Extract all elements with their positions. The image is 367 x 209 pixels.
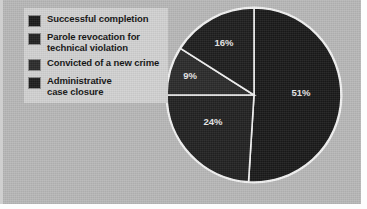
page-edge-right xyxy=(361,0,367,209)
legend-swatch-convicted-new-crime xyxy=(28,59,41,71)
pie-slice-data-label: 24% xyxy=(203,116,223,127)
legend-swatch-parole-revocation xyxy=(28,33,41,45)
legend-label-parole-revocation: Parole revocation for technical violatio… xyxy=(47,32,140,53)
legend-label-convicted-new-crime: Convicted of a new crime xyxy=(47,58,159,69)
page-edge-left xyxy=(0,0,3,209)
legend-item-convicted-new-crime: Convicted of a new crime xyxy=(28,58,164,71)
legend-item-administrative-closure: Administrative case closure xyxy=(28,76,164,97)
pie-slice-data-label: 51% xyxy=(291,87,311,98)
pie-chart: 51%24%9%16% xyxy=(165,6,345,186)
pie-slice-data-label: 9% xyxy=(183,70,197,81)
pie-slice xyxy=(167,95,254,182)
legend-swatch-administrative-closure xyxy=(28,77,41,89)
chart-legend: Successful completion Parole revocation … xyxy=(24,8,168,103)
pie-chart-figure: Successful completion Parole revocation … xyxy=(0,0,367,209)
legend-item-parole-revocation: Parole revocation for technical violatio… xyxy=(28,32,164,53)
legend-swatch-successful-completion xyxy=(28,15,41,27)
legend-label-successful-completion: Successful completion xyxy=(47,14,148,25)
pie-svg: 51%24%9%16% xyxy=(165,6,345,186)
page-edge-bottom xyxy=(0,204,367,209)
legend-item-successful-completion: Successful completion xyxy=(28,14,164,27)
legend-label-administrative-closure: Administrative case closure xyxy=(47,76,112,97)
pie-slice-data-label: 16% xyxy=(214,37,234,48)
pie-slice-group xyxy=(166,7,343,184)
